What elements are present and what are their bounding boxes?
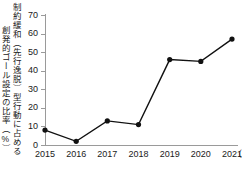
data-point-marker (105, 118, 110, 123)
line-chart: 制約緩和（先行逸脱）型行動に占める 創発的ゴール設定の比率（%） 0102030… (0, 0, 242, 169)
data-point-marker (167, 57, 172, 62)
data-series-layer (0, 0, 242, 169)
data-point-marker (136, 122, 141, 127)
data-point-marker (74, 139, 79, 144)
data-point-marker (198, 59, 203, 64)
data-point-marker (42, 128, 47, 133)
data-point-marker (229, 37, 234, 42)
